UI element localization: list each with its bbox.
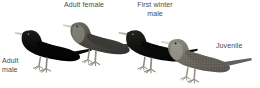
eye-icon [175, 43, 177, 45]
bill-icon [119, 32, 127, 35]
leg-rear [39, 57, 41, 67]
eye-icon [132, 33, 134, 35]
foot-rear [33, 66, 43, 70]
bill-icon [63, 24, 71, 27]
leg-rear [144, 57, 146, 67]
foot-rear [82, 59, 92, 63]
leg-front [194, 68, 195, 79]
leg-front [46, 58, 47, 69]
leg-rear [88, 49, 90, 59]
bill-icon [161, 41, 169, 44]
eye-icon [28, 33, 30, 35]
foot-rear [180, 77, 190, 81]
foot-front [40, 69, 52, 73]
label-first-winter-male: First winter male [126, 1, 184, 18]
foot-front [89, 62, 101, 66]
foot-rear [138, 66, 148, 70]
foot-front [187, 79, 199, 83]
tail-shape [224, 58, 252, 66]
bird-juvenile [160, 34, 252, 88]
label-adult-female: Adult female [56, 1, 112, 10]
leg-rear [186, 67, 188, 76]
foot-front [144, 69, 156, 73]
bill-icon [15, 32, 22, 35]
leg-front [95, 50, 96, 61]
leg-front [151, 58, 152, 69]
eye-icon [76, 26, 78, 28]
illustration-plate: Adult female First winter male Adult mal… [0, 0, 260, 88]
